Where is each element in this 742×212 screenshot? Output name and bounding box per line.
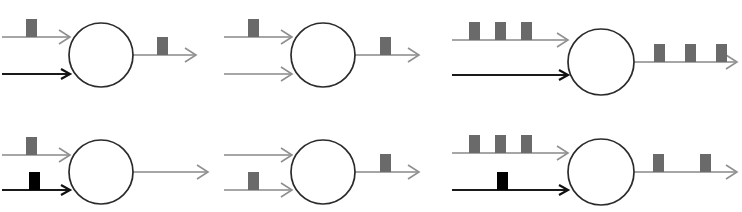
panel-3-input-top-pulse-2 xyxy=(495,22,506,40)
panel-5 xyxy=(224,140,419,204)
panel-2-input-top xyxy=(224,19,292,44)
panel-3-input-top xyxy=(452,22,568,47)
panel-1-input-bottom xyxy=(2,69,70,79)
neuron-spike-diagram xyxy=(0,0,742,212)
figure-canvas xyxy=(0,0,742,212)
panel-3 xyxy=(452,22,737,95)
panel-4-output xyxy=(133,165,208,179)
panel-1-input-top-pulse-1 xyxy=(26,19,37,37)
panel-1-neuron-node xyxy=(69,23,133,87)
panel-1 xyxy=(2,19,196,87)
panel-2-input-top-pulse-1 xyxy=(248,19,259,37)
panel-3-output-pulse-3 xyxy=(716,44,727,62)
panel-2-input-bottom xyxy=(224,67,292,81)
panel-6-output-pulse-1 xyxy=(653,154,664,172)
panel-4-input-top-pulse-1 xyxy=(26,137,37,155)
panel-1-input-top xyxy=(2,19,70,44)
panel-6 xyxy=(452,135,737,205)
panel-6-output xyxy=(634,154,737,179)
panel-2-output xyxy=(355,37,419,62)
panel-5-input-bottom xyxy=(224,172,292,197)
panel-6-neuron-node xyxy=(568,139,634,205)
panel-4-input-top xyxy=(2,137,70,162)
panel-6-input-top xyxy=(452,135,568,160)
panel-4-input-bottom-pulse-1 xyxy=(29,172,40,190)
panel-3-input-top-pulse-3 xyxy=(521,22,532,40)
panel-2-output-pulse-1 xyxy=(380,37,391,55)
panel-5-neuron-node xyxy=(291,140,355,204)
panel-5-output-pulse-1 xyxy=(380,154,391,172)
panel-6-input-top-pulse-3 xyxy=(521,135,532,153)
panel-1-output xyxy=(133,37,196,62)
panel-2 xyxy=(224,19,419,87)
panel-4 xyxy=(2,137,208,204)
panel-3-input-top-pulse-1 xyxy=(469,22,480,40)
panel-3-neuron-node xyxy=(568,29,634,95)
panel-3-input-bottom xyxy=(452,70,568,80)
panel-3-output xyxy=(634,44,737,69)
panel-2-neuron-node xyxy=(291,23,355,87)
panel-3-output-pulse-2 xyxy=(685,44,696,62)
panel-3-output-pulse-1 xyxy=(654,44,665,62)
panel-6-input-bottom-pulse-1 xyxy=(497,172,508,190)
panel-6-input-top-pulse-1 xyxy=(469,135,480,153)
panel-5-input-top xyxy=(224,148,292,162)
panel-6-input-top-pulse-2 xyxy=(495,135,506,153)
panel-4-neuron-node xyxy=(69,140,133,204)
panel-4-input-bottom xyxy=(2,172,70,195)
panel-5-output xyxy=(355,154,419,179)
panel-1-output-pulse-1 xyxy=(157,37,168,55)
panel-6-input-bottom xyxy=(452,172,568,195)
panel-6-output-pulse-2 xyxy=(700,154,711,172)
panel-5-input-bottom-pulse-1 xyxy=(248,172,259,190)
